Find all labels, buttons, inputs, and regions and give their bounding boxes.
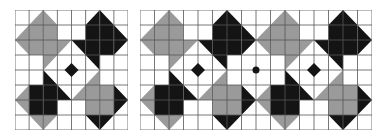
quilt-cell xyxy=(256,115,271,130)
seam-dot xyxy=(253,67,260,74)
quilt-cell xyxy=(242,10,257,25)
quilt-cell xyxy=(285,25,300,40)
quilt-cell xyxy=(198,25,213,40)
quilt-cell xyxy=(213,85,228,100)
quilt-cell xyxy=(329,100,344,115)
quilt-cell xyxy=(285,100,300,115)
quilt-cell xyxy=(271,40,286,55)
quilt-cell xyxy=(227,100,242,115)
quilt-cell xyxy=(57,115,71,130)
quilt-cell xyxy=(358,55,373,70)
quilt-cell xyxy=(271,25,286,40)
quilt-cell xyxy=(140,70,155,85)
quilt-cell xyxy=(86,85,100,100)
quilt-cell xyxy=(43,25,57,40)
quilt-cell xyxy=(213,40,228,55)
quilt-cell xyxy=(271,55,286,70)
quilt-cell xyxy=(43,40,57,55)
quilt-cell xyxy=(358,115,373,130)
single-tile-panel xyxy=(15,10,128,130)
quilt-cell xyxy=(285,85,300,100)
quilt-cell xyxy=(29,55,43,70)
quilt-cell xyxy=(100,100,114,115)
quilt-cell xyxy=(155,40,170,55)
quilt-cell xyxy=(155,25,170,40)
quilt-cell xyxy=(256,10,271,25)
quilt-cell xyxy=(358,10,373,25)
quilt-cell xyxy=(314,10,329,25)
quilt-cell xyxy=(314,25,329,40)
quilt-cell xyxy=(242,115,257,130)
quilt-cell xyxy=(43,100,57,115)
quilt-cell xyxy=(314,100,329,115)
quilt-cell xyxy=(227,70,242,85)
quilt-cell xyxy=(15,55,29,70)
quilt-cell xyxy=(155,100,170,115)
quilt-cell xyxy=(169,85,184,100)
quilt-cell xyxy=(86,40,100,55)
quilt-cell xyxy=(300,115,315,130)
quilt-cell xyxy=(29,70,43,85)
quilt-panel-double-tile xyxy=(140,10,372,130)
quilt-cell xyxy=(198,100,213,115)
quilt-cell xyxy=(329,85,344,100)
quilt-cell xyxy=(72,100,86,115)
quilt-cell xyxy=(285,40,300,55)
quilt-cell xyxy=(169,25,184,40)
quilt-cell xyxy=(57,10,71,25)
quilt-cell xyxy=(300,10,315,25)
quilt-cell xyxy=(271,100,286,115)
quilt-cell xyxy=(100,70,114,85)
quilt-cell xyxy=(343,55,358,70)
quilt-cell xyxy=(29,25,43,40)
quilt-cell xyxy=(155,70,170,85)
quilt-cell xyxy=(271,70,286,85)
quilt-cell xyxy=(15,10,29,25)
quilt-cell xyxy=(114,70,128,85)
quilt-cell xyxy=(72,115,86,130)
quilt-cell xyxy=(343,25,358,40)
quilt-cell xyxy=(57,25,71,40)
quilt-panel-single-tile xyxy=(15,10,128,130)
quilt-cell xyxy=(100,55,114,70)
quilt-cell xyxy=(155,55,170,70)
quilt-cell xyxy=(300,100,315,115)
quilt-cell xyxy=(169,100,184,115)
quilt-cell xyxy=(72,25,86,40)
quilt-cell xyxy=(343,85,358,100)
quilt-cell xyxy=(184,10,199,25)
quilt-cell xyxy=(43,85,57,100)
quilt-cell xyxy=(343,70,358,85)
quilt-cell xyxy=(227,85,242,100)
quilt-cell xyxy=(100,25,114,40)
quilt-cell xyxy=(227,55,242,70)
quilt-cell xyxy=(227,40,242,55)
quilt-cell xyxy=(169,40,184,55)
quilt-cell xyxy=(329,25,344,40)
quilt-cell xyxy=(29,40,43,55)
quilt-cell xyxy=(114,115,128,130)
quilt-cell xyxy=(57,100,71,115)
quilt-cell xyxy=(140,115,155,130)
quilt-cell xyxy=(140,10,155,25)
quilt-cell xyxy=(213,100,228,115)
quilt-cell xyxy=(184,100,199,115)
quilt-cell xyxy=(15,115,29,130)
quilt-cell xyxy=(114,55,128,70)
quilt-cell xyxy=(343,40,358,55)
quilt-cell xyxy=(329,40,344,55)
quilt-cell xyxy=(184,25,199,40)
double-tile-panel xyxy=(140,10,372,130)
quilt-cell xyxy=(271,85,286,100)
quilt-cell xyxy=(198,115,213,130)
quilt-cell xyxy=(213,25,228,40)
quilt-cell xyxy=(140,55,155,70)
quilt-cell xyxy=(343,100,358,115)
quilt-cell xyxy=(29,85,43,100)
quilt-cell xyxy=(114,10,128,25)
quilt-cell xyxy=(314,115,329,130)
quilt-cell xyxy=(72,10,86,25)
quilt-cell xyxy=(29,100,43,115)
quilt-cell xyxy=(300,25,315,40)
quilt-cell xyxy=(184,115,199,130)
